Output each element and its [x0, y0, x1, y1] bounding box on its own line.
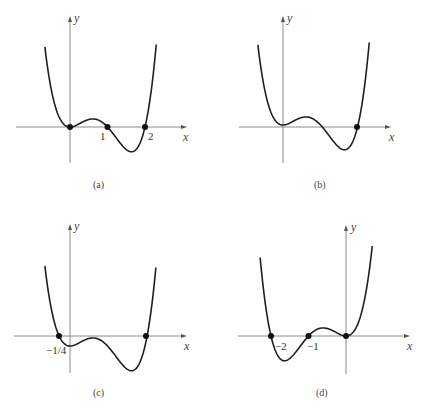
y-intercept-label: −1/4	[46, 344, 67, 356]
x-axis-label: x	[183, 339, 190, 353]
point-marker	[268, 333, 274, 339]
caption: (b)	[314, 179, 326, 191]
tick-label: 1	[100, 130, 106, 142]
x-axis-label: x	[406, 339, 413, 353]
caption: (d)	[316, 387, 328, 399]
panel-d: y x −2 −1 (d)	[238, 220, 413, 399]
caption: (a)	[93, 179, 104, 191]
y-axis-arrow-icon	[344, 225, 348, 231]
panel-c: y x −1/4 (c)	[14, 219, 190, 399]
curve	[258, 42, 369, 149]
y-axis-label: y	[350, 220, 357, 234]
y-axis-arrow-icon	[68, 224, 72, 230]
point-marker	[343, 333, 349, 339]
y-axis-label: y	[286, 11, 293, 25]
x-axis-arrow-icon	[404, 334, 410, 338]
x-axis-arrow-icon	[181, 334, 187, 338]
x-axis-arrow-icon	[181, 125, 187, 129]
point-marker	[354, 124, 360, 130]
tick-label: −2	[275, 340, 287, 352]
point-marker	[67, 124, 73, 130]
tick-label: −1	[307, 340, 319, 352]
point-marker	[306, 333, 312, 339]
tick-label: 2	[148, 130, 154, 142]
x-axis-label: x	[388, 130, 395, 144]
point-marker	[143, 333, 149, 339]
caption: (c)	[93, 387, 104, 399]
x-axis-arrow-icon	[385, 125, 391, 129]
point-marker	[56, 333, 62, 339]
y-axis-arrow-icon	[281, 16, 285, 22]
figure: y x 1 2 (a) y x (b) y x −1/4 (c)	[0, 0, 425, 409]
y-axis-arrow-icon	[68, 16, 72, 22]
y-axis-label: y	[73, 11, 80, 25]
panel-a: y x 1 2 (a)	[16, 11, 189, 191]
x-axis-label: x	[182, 130, 189, 144]
y-axis-label: y	[73, 219, 80, 233]
panel-b: y x (b)	[239, 11, 395, 191]
